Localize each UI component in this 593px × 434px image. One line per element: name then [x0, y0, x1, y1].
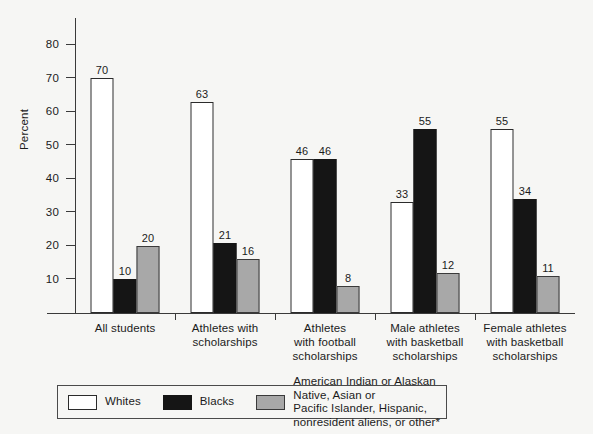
bars: 553411: [491, 18, 560, 313]
bars: 701020: [91, 18, 160, 313]
legend-swatch-whites: [68, 395, 97, 410]
legend-swatch-blacks: [163, 395, 192, 410]
bar-value-label: 34: [519, 185, 531, 197]
bar-value-label: 20: [142, 232, 154, 244]
bar-wrapper: 46: [291, 18, 314, 313]
y-tick-70: 70: [66, 77, 75, 78]
legend-item[interactable]: American Indian or Alaskan Native, Asian…: [256, 386, 446, 418]
y-tick-50: 50: [66, 144, 75, 145]
bar-group: 632116Athletes withscholarships: [175, 18, 275, 313]
bars: 632116: [191, 18, 260, 313]
bar-wrapper: 16: [237, 18, 260, 313]
legend-label: American Indian or Alaskan Native, Asian…: [293, 375, 446, 429]
bar-value-label: 11: [542, 262, 554, 274]
y-axis-title: Percent: [18, 109, 30, 150]
bar-value-label: 21: [219, 229, 231, 241]
group-separator-tick: [375, 313, 376, 320]
bar[interactable]: [337, 286, 360, 313]
legend-label: Blacks: [200, 395, 234, 409]
x-axis-line: [47, 313, 575, 314]
bar-wrapper: 12: [437, 18, 460, 313]
legend-item[interactable]: Blacks: [163, 386, 234, 418]
bar-wrapper: 55: [414, 18, 437, 313]
legend-items: WhitesBlacksAmerican Indian or Alaskan N…: [58, 386, 446, 418]
bar-value-label: 16: [242, 245, 254, 257]
y-tick-label: 60: [46, 105, 59, 117]
y-tick-label: 40: [46, 172, 59, 184]
bar-wrapper: 21: [214, 18, 237, 313]
bar-wrapper: 63: [191, 18, 214, 313]
bar-group: 335512Male athleteswith basketballschola…: [375, 18, 475, 313]
bar[interactable]: [391, 202, 414, 313]
y-tick-40: 40: [66, 178, 75, 179]
bar-value-label: 8: [345, 272, 351, 284]
category-label: Female athleteswith basketballscholarshi…: [465, 321, 585, 363]
bar[interactable]: [137, 246, 160, 313]
legend-swatch-other: [256, 395, 285, 410]
bar[interactable]: [514, 199, 537, 313]
bar[interactable]: [437, 273, 460, 313]
bar-value-label: 10: [119, 265, 131, 277]
y-tick-20: 20: [66, 245, 75, 246]
bar-wrapper: 34: [514, 18, 537, 313]
bar[interactable]: [91, 78, 114, 313]
y-tick-label: 20: [46, 239, 59, 251]
group-separator-tick: [275, 313, 276, 320]
bars: 46468: [291, 18, 360, 313]
y-tick-60: 60: [66, 111, 75, 112]
bar[interactable]: [414, 129, 437, 313]
group-separator-tick: [175, 313, 176, 320]
y-tick-80: 80: [66, 44, 75, 45]
bar-wrapper: 55: [491, 18, 514, 313]
y-tick-label: 80: [46, 38, 59, 50]
bar-wrapper: 33: [391, 18, 414, 313]
bar-wrapper: 70: [91, 18, 114, 313]
y-tick-30: 30: [66, 211, 75, 212]
y-tick-label: 70: [46, 72, 59, 84]
bar[interactable]: [114, 279, 137, 313]
bar[interactable]: [537, 276, 560, 313]
y-tick-label: 30: [46, 206, 59, 218]
bar[interactable]: [214, 243, 237, 313]
bar-value-label: 55: [419, 115, 431, 127]
bar-value-label: 33: [396, 188, 408, 200]
bar-group: 46468Athleteswith footballscholarships: [275, 18, 375, 313]
y-tick-label: 10: [46, 273, 59, 285]
legend-item[interactable]: Whites: [68, 386, 141, 418]
bar-value-label: 63: [196, 88, 208, 100]
bar-value-label: 46: [296, 145, 308, 157]
bar-value-label: 55: [496, 115, 508, 127]
legend-label: Whites: [105, 395, 141, 409]
group-separator-tick: [475, 313, 476, 320]
bar-value-label: 12: [442, 259, 454, 271]
bar[interactable]: [314, 159, 337, 313]
bar-group: 553411Female athleteswith basketballscho…: [475, 18, 575, 313]
plot-area: 1020304050607080 701020All students63211…: [75, 18, 575, 313]
bar[interactable]: [191, 102, 214, 313]
bar-wrapper: 46: [314, 18, 337, 313]
bar[interactable]: [491, 129, 514, 313]
bar-wrapper: 20: [137, 18, 160, 313]
y-tick-label: 50: [46, 139, 59, 151]
legend: WhitesBlacksAmerican Indian or Alaskan N…: [57, 385, 447, 419]
y-tick-10: 10: [66, 278, 75, 279]
bar-value-label: 46: [319, 145, 331, 157]
bar-value-label: 70: [96, 64, 108, 76]
bar[interactable]: [237, 259, 260, 313]
bar-wrapper: 11: [537, 18, 560, 313]
bar-chart: Percent 1020304050607080 701020All stude…: [0, 0, 593, 434]
bar[interactable]: [291, 159, 314, 313]
bar-wrapper: 8: [337, 18, 360, 313]
bars: 335512: [391, 18, 460, 313]
bar-group: 701020All students: [75, 18, 175, 313]
bar-wrapper: 10: [114, 18, 137, 313]
